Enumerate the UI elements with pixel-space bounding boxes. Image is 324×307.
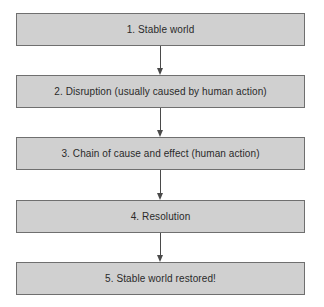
step-label: 1. Stable world — [127, 24, 195, 35]
arrow-head — [157, 193, 163, 200]
step-label: 5. Stable world restored! — [105, 273, 216, 284]
step-label: 3. Chain of cause and effect (human acti… — [61, 148, 259, 159]
arrow-head — [157, 255, 163, 262]
arrow-shaft — [160, 233, 161, 255]
step-label: 4. Resolution — [131, 211, 191, 222]
arrow-down-icon — [160, 233, 162, 262]
arrow-down-icon — [160, 46, 162, 75]
arrow-down-icon — [160, 170, 162, 200]
arrow-shaft — [160, 46, 161, 68]
step-label: 2. Disruption (usually caused by human a… — [54, 86, 267, 97]
arrow-shaft — [160, 108, 161, 130]
step-box-chain-of-cause-and-effect: 3. Chain of cause and effect (human acti… — [16, 137, 305, 170]
arrow-head — [157, 130, 163, 137]
step-box-stable-world-restored: 5. Stable world restored! — [16, 262, 305, 295]
step-box-disruption: 2. Disruption (usually caused by human a… — [16, 75, 305, 108]
step-box-stable-world: 1. Stable world — [16, 13, 305, 46]
step-box-resolution: 4. Resolution — [16, 200, 305, 233]
arrow-down-icon — [160, 108, 162, 137]
flowchart-diagram: 1. Stable world 2. Disruption (usually c… — [0, 0, 324, 307]
arrow-head — [157, 68, 163, 75]
arrow-shaft — [160, 170, 161, 193]
